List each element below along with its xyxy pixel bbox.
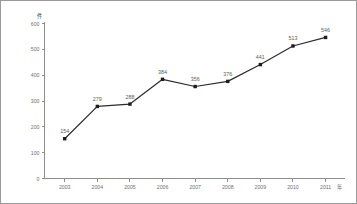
data-point-labels: 154279288384356376441513546 — [60, 27, 330, 134]
data-point-label: 546 — [321, 27, 330, 33]
data-point-label: 513 — [288, 35, 297, 41]
data-point-marker — [259, 63, 262, 66]
x-axis-tick-label: 2004 — [92, 184, 104, 190]
x-axis-tick-label: 2010 — [287, 184, 299, 190]
x-axis-tick-label: 2007 — [189, 184, 201, 190]
y-axis-tick-label: 600 — [31, 21, 40, 27]
data-point-label: 356 — [191, 76, 200, 82]
y-axis-tick-label: 400 — [31, 72, 40, 78]
y-axis: 0100200300400500600 — [31, 21, 45, 182]
x-axis-tick-label: 2011 — [320, 184, 331, 190]
data-point-marker — [226, 80, 229, 83]
y-axis-tick-label: 500 — [31, 46, 40, 52]
data-point-marker — [96, 105, 99, 108]
data-point-label: 441 — [256, 54, 265, 60]
data-point-marker — [193, 85, 196, 88]
data-point-marker — [128, 102, 131, 105]
data-point-marker — [291, 44, 294, 47]
x-axis-tick-label: 2009 — [255, 184, 267, 190]
data-point-marker — [324, 36, 327, 39]
data-point-label: 376 — [223, 71, 232, 77]
data-point-label: 288 — [125, 94, 134, 100]
data-point-label: 279 — [93, 96, 102, 102]
data-point-label: 384 — [158, 69, 167, 75]
data-series — [63, 36, 327, 141]
y-axis-unit-label: 件 — [37, 12, 42, 20]
data-point-marker — [161, 78, 164, 81]
chart-figure: 0100200300400500600 20032004200520062007… — [0, 0, 357, 204]
data-point-marker — [63, 137, 66, 140]
x-axis-tick-label: 2005 — [124, 184, 136, 190]
y-axis-tick-label: 0 — [37, 176, 40, 182]
x-axis-unit-label: 年 — [337, 183, 342, 191]
x-axis-tick-label: 2008 — [222, 184, 234, 190]
x-axis-tick-label: 2003 — [59, 184, 71, 190]
y-axis-tick-label: 200 — [31, 124, 40, 130]
line-chart: 0100200300400500600 20032004200520062007… — [1, 1, 357, 204]
y-axis-tick-label: 100 — [31, 150, 40, 156]
x-axis: 200320042005200620072008200920102011 — [42, 179, 345, 191]
x-axis-tick-label: 2006 — [157, 184, 169, 190]
data-point-label: 154 — [60, 128, 69, 134]
y-axis-tick-label: 300 — [31, 98, 40, 104]
